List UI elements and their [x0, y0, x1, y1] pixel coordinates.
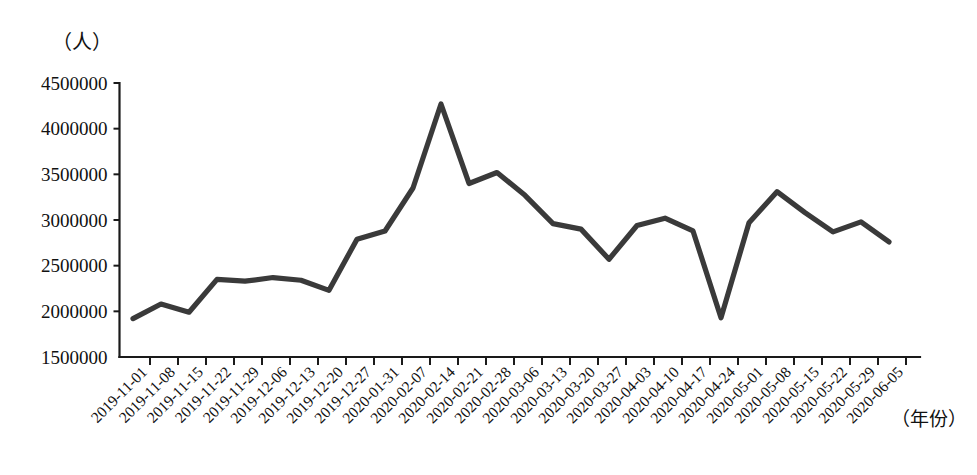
chart-plot-area: 4500000400000035000003000000250000020000… — [0, 0, 977, 475]
y-axis-tick-label: 4500000 — [41, 73, 108, 94]
x-axis-tick-marks — [150, 357, 906, 365]
y-axis-tick-label: 4000000 — [41, 118, 108, 139]
y-axis-tick-label: 2000000 — [41, 301, 108, 322]
data-series-line — [133, 104, 889, 319]
y-axis-tick-label: 1500000 — [41, 347, 108, 368]
y-axis-tick-label: 2500000 — [41, 255, 108, 276]
y-axis-tick-label: 3500000 — [41, 164, 108, 185]
line-chart-figure: （人） 450000040000003500000300000025000002… — [0, 0, 977, 475]
x-axis-title: （年份） — [891, 404, 967, 431]
x-axis-tick-labels: 2019-11-012019-11-082019-11-152019-11-22… — [87, 363, 906, 426]
y-axis-tick-labels: 4500000400000035000003000000250000020000… — [41, 73, 108, 368]
y-axis-tick-label: 3000000 — [41, 210, 108, 231]
